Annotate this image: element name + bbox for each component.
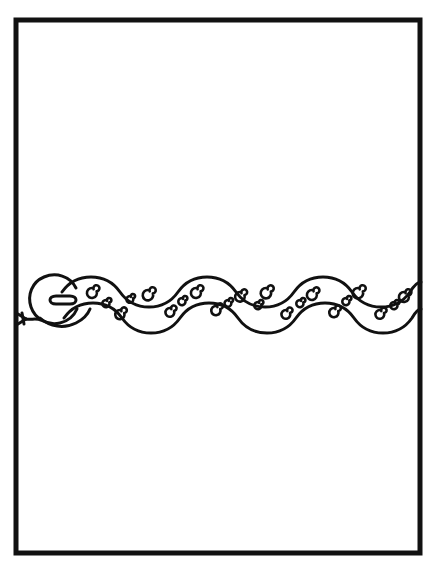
artboard xyxy=(0,0,438,569)
snake-tongue xyxy=(26,319,41,320)
page-background xyxy=(0,0,438,569)
snake-tongue-cross xyxy=(22,313,24,324)
coloring-page: Line drawing of a long wavy snake decora… xyxy=(0,0,438,569)
